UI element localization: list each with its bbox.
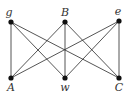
node-label-e: e (115, 5, 122, 18)
bipartite-graph-diagram: gBeAwC (0, 0, 129, 93)
node-e (116, 18, 121, 23)
node-label-g: g (5, 6, 12, 19)
node-w (62, 75, 67, 80)
node-label-w: w (60, 81, 70, 93)
node-label-C: C (115, 81, 124, 93)
edges (11, 21, 119, 78)
node-label-A: A (6, 81, 15, 93)
node-g (8, 19, 13, 24)
node-B (62, 19, 67, 24)
node-A (8, 75, 13, 80)
node-label-B: B (60, 6, 69, 19)
node-C (116, 75, 121, 80)
